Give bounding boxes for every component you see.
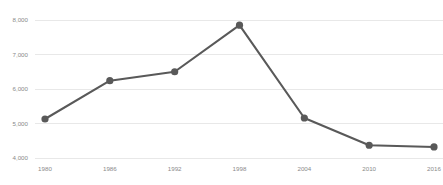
y-tick-label: 4,000 [13,154,29,161]
series-line [45,25,434,147]
x-tick-label: 1986 [103,165,117,172]
x-tick-label: 2004 [297,165,311,172]
data-point-marker [301,114,308,121]
data-point-marker [41,115,48,122]
x-tick-label: 1992 [168,165,182,172]
data-point-marker [106,77,113,84]
x-tick-label: 1998 [233,165,247,172]
data-point-marker [236,22,243,29]
y-axis-tick-labels: 4,0005,0006,0007,0008,000 [13,16,29,161]
x-tick-label: 2010 [362,165,376,172]
x-tick-label: 2016 [427,165,441,172]
y-tick-label: 6,000 [13,85,29,92]
x-axis-tick-labels: 1980198619921998200420102016 [38,165,441,172]
data-point-marker [366,142,373,149]
y-tick-label: 5,000 [13,120,29,127]
y-tick-label: 7,000 [13,51,29,58]
data-point-marker [171,68,178,75]
line-chart: 4,0005,0006,0007,0008,000 19801986199219… [0,0,443,185]
y-tick-label: 8,000 [13,16,29,23]
chart-plot-area: 4,0005,0006,0007,0008,000 19801986199219… [0,0,443,185]
x-tick-label: 1980 [38,165,52,172]
data-series [41,22,437,151]
data-point-marker [430,143,437,150]
